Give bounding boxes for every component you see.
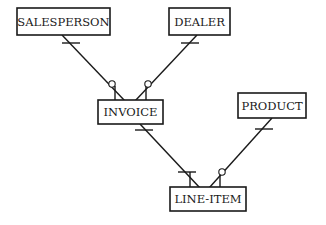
entity-label: INVOICE — [104, 105, 158, 119]
relationship-salesperson-invoice — [62, 35, 125, 101]
entity-line-item: LINE-ITEM — [170, 187, 246, 211]
entity-label: DEALER — [174, 15, 225, 29]
entity-label: PRODUCT — [241, 99, 303, 113]
er-diagram: SALESPERSON DEALER INVOICE PRODUCT LINE-… — [0, 0, 326, 225]
entity-dealer: DEALER — [169, 8, 230, 35]
relationship-invoice-line-item — [135, 124, 200, 188]
zero-circle-icon — [219, 169, 225, 175]
entity-label: LINE-ITEM — [174, 192, 241, 206]
zero-circle-icon — [145, 81, 151, 87]
relationship-product-line-item — [209, 118, 273, 188]
relationship-dealer-invoice — [135, 35, 199, 101]
entity-salesperson: SALESPERSON — [17, 8, 110, 35]
entity-product: PRODUCT — [238, 93, 306, 118]
entity-label: SALESPERSON — [17, 15, 109, 29]
zero-circle-icon — [109, 81, 115, 87]
entity-invoice: INVOICE — [98, 100, 163, 124]
